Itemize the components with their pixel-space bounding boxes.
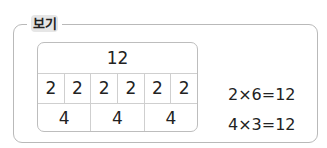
four-cell: 4 bbox=[38, 103, 91, 132]
two-cell: 2 bbox=[91, 73, 118, 103]
two-cell: 2 bbox=[65, 73, 92, 103]
two-cell: 2 bbox=[38, 73, 65, 103]
four-cell: 4 bbox=[91, 103, 144, 132]
fours-row: 4 4 4 bbox=[38, 103, 197, 132]
four-cell: 4 bbox=[145, 103, 197, 132]
two-cell: 2 bbox=[171, 73, 197, 103]
example-label: 보기 bbox=[31, 15, 58, 32]
bar-model-table: 12 2 2 2 2 2 2 4 4 4 bbox=[37, 42, 198, 132]
two-cell: 2 bbox=[145, 73, 172, 103]
equation-fours: 4×3=12 bbox=[228, 110, 296, 140]
total-cell: 12 bbox=[38, 43, 197, 73]
total-row: 12 bbox=[38, 43, 197, 74]
twos-row: 2 2 2 2 2 2 bbox=[38, 73, 197, 104]
two-cell: 2 bbox=[118, 73, 145, 103]
equation-twos: 2×6=12 bbox=[228, 80, 296, 110]
equations: 2×6=12 4×3=12 bbox=[228, 80, 296, 140]
